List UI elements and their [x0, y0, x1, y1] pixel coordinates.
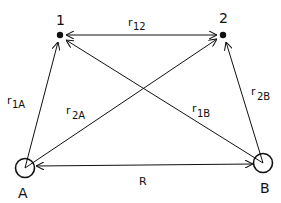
- node-1-label: 1: [56, 12, 65, 28]
- diagram-canvas: 1 2 A B r 12 r 1A r 2A r 1B r 2B R: [0, 0, 281, 203]
- R-label: R: [139, 175, 147, 188]
- r2B-label: r 2B: [251, 85, 270, 102]
- node-2-label: 2: [219, 10, 228, 26]
- r1A-label: r 1A: [7, 94, 25, 110]
- r1B-label: r 1B: [192, 102, 210, 119]
- svg-text:2A: 2A: [72, 110, 85, 121]
- svg-text:1A: 1A: [12, 99, 25, 110]
- svg-text:r: r: [251, 85, 256, 98]
- electron-1-dot: [57, 32, 63, 38]
- svg-text:r: r: [66, 104, 71, 117]
- two-center-two-electron-diagram: 1 2 A B r 12 r 1A r 2A r 1B r 2B R: [0, 0, 281, 203]
- R-arrow: [36, 164, 253, 166]
- svg-text:12: 12: [133, 21, 146, 32]
- node-A-label: A: [18, 185, 28, 201]
- r2A-label: r 2A: [66, 104, 85, 121]
- r2B-arrow: [226, 42, 263, 163]
- svg-text:2B: 2B: [257, 91, 270, 102]
- r1B-arrow: [66, 40, 263, 163]
- electron-2-dot: [220, 32, 226, 38]
- svg-text:1B: 1B: [197, 108, 210, 119]
- r12-label: r 12: [128, 16, 146, 32]
- node-B-label: B: [260, 180, 270, 196]
